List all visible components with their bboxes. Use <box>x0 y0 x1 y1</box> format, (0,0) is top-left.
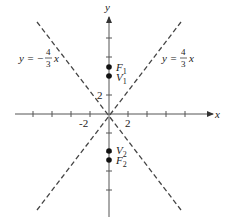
x-axis-label: x <box>214 108 220 120</box>
equation-positive: y = 4 3 x <box>161 47 194 69</box>
x-tick-label-2: 2 <box>125 117 131 129</box>
point-F1 <box>106 64 112 70</box>
hyperbola-diagram: x y -2 2 2 F1 V1 V2 F2 y = − 4 3 x y = 4… <box>0 0 231 220</box>
svg-text:4: 4 <box>181 47 186 57</box>
svg-text:3: 3 <box>46 59 51 69</box>
y-axis-label: y <box>104 1 110 13</box>
x-tick-label-neg2: -2 <box>79 117 88 129</box>
point-F2 <box>106 157 112 163</box>
svg-text:4: 4 <box>46 47 51 57</box>
svg-text:3: 3 <box>181 59 186 69</box>
svg-text:y =: y = <box>161 52 177 64</box>
point-V1 <box>106 73 112 79</box>
point-V2 <box>106 148 112 154</box>
y-tick-label-2: 2 <box>97 89 103 101</box>
equation-negative: y = − 4 3 x <box>18 47 59 69</box>
svg-text:x: x <box>53 52 59 64</box>
svg-text:y = −: y = − <box>18 52 44 64</box>
svg-text:x: x <box>188 52 194 64</box>
